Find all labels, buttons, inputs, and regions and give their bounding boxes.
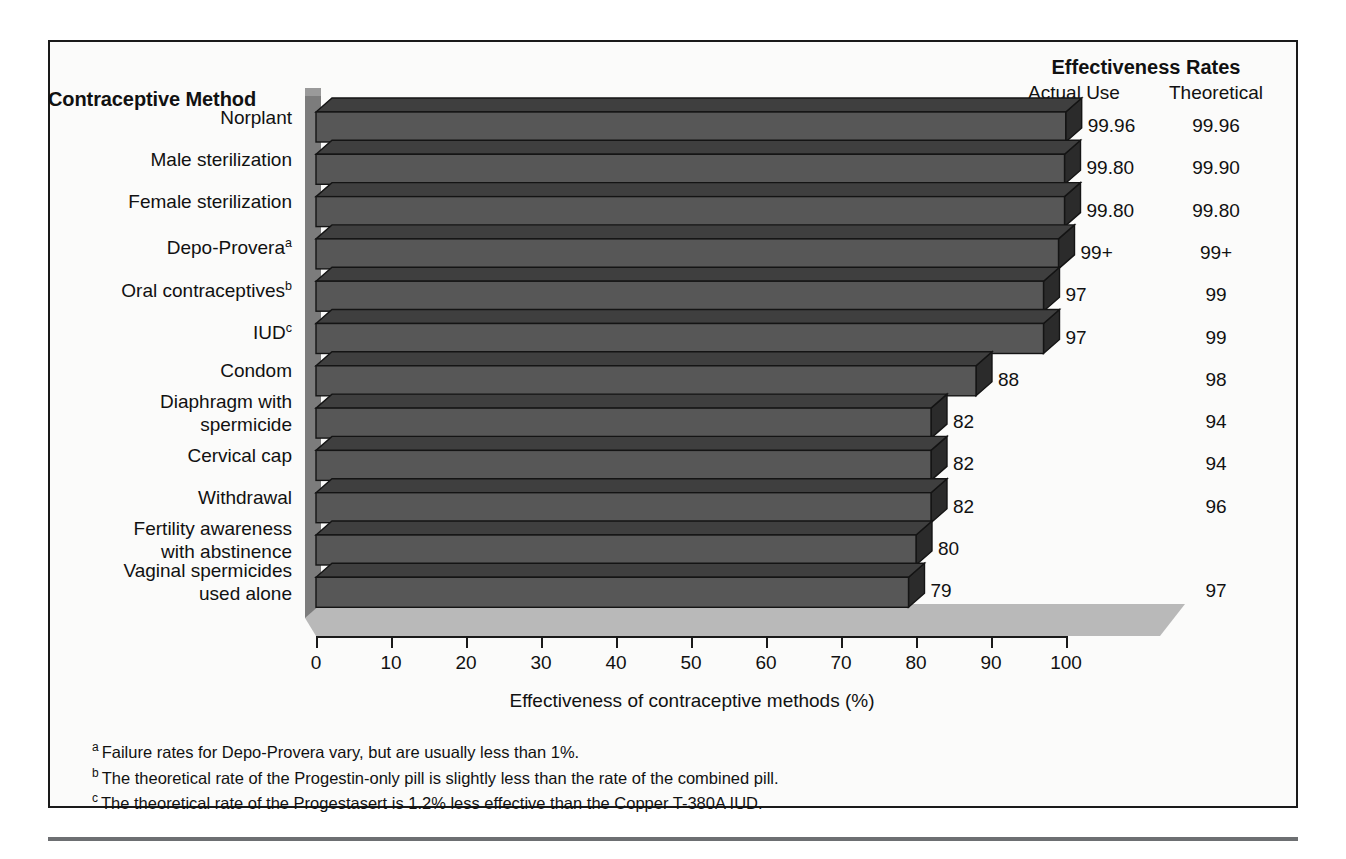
x-axis-tick: [466, 637, 468, 648]
x-axis-tick: [991, 637, 993, 648]
footnotes: aFailure rates for Depo-Provera vary, bu…: [92, 737, 779, 814]
footnote: bThe theoretical rate of the Progestin-o…: [92, 763, 779, 789]
x-axis-title: Effectiveness of contraceptive methods (…: [316, 690, 1068, 712]
footnote: cThe theoretical rate of the Progestaser…: [92, 788, 779, 814]
x-axis-tick-label: 100: [1036, 652, 1096, 674]
footnote-marker: b: [92, 766, 99, 780]
x-axis-tick-label: 90: [961, 652, 1021, 674]
column-header-actual-use: Actual Use: [1012, 82, 1136, 104]
x-axis-tick: [541, 637, 543, 648]
bottom-rule: [48, 837, 1298, 841]
footnote: aFailure rates for Depo-Provera vary, bu…: [92, 737, 779, 763]
column-header-theoretical: Theoretical: [1146, 82, 1286, 104]
x-axis-tick: [1066, 637, 1068, 648]
x-axis-tick: [691, 637, 693, 648]
x-axis-tick: [616, 637, 618, 648]
x-axis-tick-label: 60: [736, 652, 796, 674]
footnote-marker: c: [92, 791, 98, 805]
x-axis-tick: [766, 637, 768, 648]
x-axis-tick-label: 30: [511, 652, 571, 674]
method-column-header: Contraceptive Method: [48, 88, 256, 111]
x-axis-tick-label: 20: [436, 652, 496, 674]
footnote-text: Failure rates for Depo-Provera vary, but…: [102, 743, 580, 761]
x-axis-tick-label: 50: [661, 652, 721, 674]
effectiveness-rates-title: Effectiveness Rates: [1012, 56, 1280, 79]
x-axis-tick: [841, 637, 843, 648]
x-axis-tick-label: 70: [811, 652, 871, 674]
x-axis-tick: [316, 637, 318, 648]
x-axis-tick-label: 0: [286, 652, 346, 674]
x-axis-tick: [916, 637, 918, 648]
x-axis-tick-label: 10: [361, 652, 421, 674]
x-axis-tick: [391, 637, 393, 648]
chart-back-wall: [305, 96, 321, 618]
footnote-marker: a: [92, 740, 99, 754]
footnote-text: The theoretical rate of the Progestasert…: [101, 794, 763, 812]
footnote-text: The theoretical rate of the Progestin-on…: [102, 768, 779, 786]
x-axis-tick-label: 80: [886, 652, 946, 674]
x-axis-tick-label: 40: [586, 652, 646, 674]
